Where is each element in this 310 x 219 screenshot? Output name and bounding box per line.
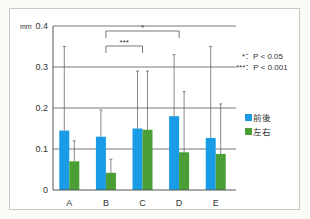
significance-bracket: [106, 31, 179, 38]
significance-label: ***: [120, 38, 129, 47]
x-tick-label: D: [176, 198, 183, 208]
y-tick-label: 0.4: [35, 21, 48, 31]
y-tick-label: 0.3: [35, 62, 48, 72]
legend-swatch-anteroposterior: [245, 114, 252, 121]
bar-A-1: [69, 161, 79, 190]
x-tick-label: A: [66, 198, 72, 208]
bar-E-0: [206, 138, 216, 190]
bar-A-0: [59, 131, 69, 190]
x-tick-label: C: [139, 198, 146, 208]
y-tick-label: 0.1: [35, 144, 48, 154]
bar-C-0: [133, 129, 143, 191]
y-tick-label: 0.2: [35, 103, 48, 113]
bar-D-1: [179, 152, 189, 190]
bar-E-1: [216, 154, 226, 190]
legend-label-lateral: 左右: [253, 127, 271, 137]
bar-B-0: [96, 137, 106, 190]
bar-B-1: [106, 173, 116, 190]
annotation-p0001: ***：P < 0.001: [236, 63, 288, 72]
x-tick-label: B: [103, 198, 109, 208]
significance-label: *: [141, 23, 144, 32]
y-tick-label: 0: [43, 185, 48, 195]
bars: [59, 47, 225, 191]
x-tick-label: E: [213, 198, 219, 208]
legend-swatch-lateral: [245, 128, 252, 135]
y-axis-unit: mm: [20, 23, 32, 30]
legend-label-anteroposterior: 前後: [253, 113, 271, 123]
bar-C-1: [143, 130, 153, 190]
annotation-p005: *：P < 0.05: [242, 52, 284, 61]
significance-bracket: [106, 46, 143, 53]
significance-brackets: ****: [106, 23, 179, 53]
bar-D-0: [169, 116, 179, 190]
bar-chart: 00.10.20.30.4ABCDE mm **** *：P < 0.05 **…: [0, 0, 310, 219]
